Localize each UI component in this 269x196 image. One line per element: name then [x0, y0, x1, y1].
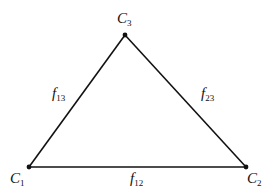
node-c2 [244, 165, 249, 170]
edge-label-f23: f23 [201, 85, 215, 103]
node-c3 [123, 33, 128, 38]
node-c1 [27, 165, 32, 170]
edge-label-f13: f13 [52, 85, 66, 103]
edge-f13 [29, 35, 125, 167]
node-label-c2: C2 [247, 170, 262, 188]
node-label-c3: C3 [117, 10, 132, 28]
edge-f23 [125, 35, 246, 167]
edge-label-f12: f12 [130, 170, 143, 188]
triangle-diagram: C3 C1 C2 f13 f23 f12 [0, 0, 269, 196]
node-label-c1: C1 [10, 170, 25, 188]
